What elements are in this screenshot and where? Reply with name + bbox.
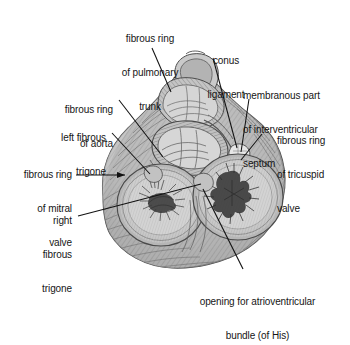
label-right-fibrous-trigone: right fibrous trigone — [6, 193, 72, 316]
left-fibrous-trigone — [144, 166, 162, 183]
label-fibrous-ring-of-tricuspid-valve: fibrous ring of tricuspid valve — [277, 113, 350, 236]
label-opening-for-atrioventricular-bundle: opening for atrioventricular bundle (of … — [170, 274, 345, 345]
right-fibrous-trigone — [194, 173, 214, 191]
